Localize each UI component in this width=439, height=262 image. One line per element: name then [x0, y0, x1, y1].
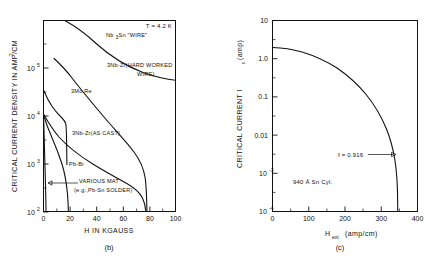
y-tick-label-b-3: 10 2: [27, 206, 40, 216]
figure-container: 0 20 40 60 80 100 H IN KGAUSS 10: [0, 0, 439, 262]
y-tick-base-b-1: 10: [27, 113, 35, 120]
x-axis-title-c-main: H: [325, 230, 330, 237]
curve-3mo-re: [44, 90, 67, 165]
label-pb-bi: Pb-Bi: [69, 161, 84, 167]
y-axis-title-c-main: CRITICAL CURRENT I: [236, 89, 243, 168]
label-nb3sn-wire-text2: Sn "WIRE": [119, 32, 148, 38]
x-tick-label-c-0: 0: [271, 215, 275, 222]
y-tick-exp-c-4: -3: [269, 167, 274, 173]
y-axis-title-c: CRITICAL CURRENT I c (amp): [236, 40, 246, 168]
label-3nbzr-hard-worked-line2: WIRE): [137, 71, 154, 77]
y-tick-exp-b-3: 2: [37, 206, 40, 212]
x-axis-title-b: H IN KGAUSS: [84, 227, 134, 234]
y-tick-exp-c-5: -4: [269, 205, 274, 211]
x-axis-title-c-unit: (amp/cm): [345, 230, 378, 238]
x-axis-ticks-b: [44, 207, 176, 212]
caption-c: (c): [336, 243, 345, 252]
y-tick-label-b-1: 10 4: [27, 110, 40, 120]
label-3nbzr-as-cast: 3Nb-Zr(AS CAST): [72, 130, 120, 136]
caption-b: (b): [104, 243, 114, 252]
label-various-mat-line2: (e.g.,Pb-Sn SOLDER): [74, 187, 133, 193]
curve-sn-cylinder: [273, 48, 398, 212]
y-axis-title-b-text: CRITICAL CURRENT DENSITY IN AMP/CM: [11, 40, 18, 192]
y-axis-title-c-sub: c: [240, 61, 246, 64]
y-tick-label-c-4: 10 -3: [259, 167, 274, 177]
y-tick-label-c-3: 0.01: [254, 132, 268, 139]
y-tick-label-c-2: 0.1: [258, 93, 268, 100]
curve-pb-bi: [44, 115, 69, 212]
label-3nbzr-hard-worked: 3Nb-Zr(HARD WORKED: [107, 62, 172, 68]
y-axis-title-c-unit: (amp): [236, 40, 244, 60]
label-various-mat: VARIOUS MAT: [79, 178, 119, 184]
x-tick-label-b-4: 80: [146, 215, 154, 222]
panel-c-svg: 0 100 200 300 400 H ext (amp/cm): [220, 0, 439, 262]
y-tick-label-c-1: 1.0: [258, 55, 268, 62]
annotation-f-value: f = 0.916: [338, 152, 396, 158]
annotation-sample: 940 Å Sn Cyl.: [293, 179, 332, 185]
x-tick-label-b-0: 0: [42, 215, 46, 222]
x-tick-label-b-3: 60: [119, 215, 127, 222]
label-nb3sn-wire: Nb 3 Sn "WIRE": [106, 32, 147, 40]
x-tick-label-b-1: 20: [66, 215, 74, 222]
y-tick-label-b-0: 10 5: [27, 62, 40, 72]
y-tick-base-b-3: 10: [27, 209, 35, 216]
x-axis-ticks-c: [273, 207, 418, 212]
x-tick-label-c-3: 300: [375, 215, 387, 222]
y-tick-base-b-0: 10: [27, 65, 35, 72]
x-tick-label-c-4: 400: [412, 215, 424, 222]
y-axis-ticks-c: [273, 21, 278, 212]
y-axis-title-b-exp: 2: [8, 53, 14, 56]
annotation-f-text: f = 0.916: [338, 152, 364, 158]
y-tick-label-c-5: 10 -4: [259, 205, 274, 215]
y-tick-exp-b-1: 4: [37, 110, 40, 116]
label-temperature-b: T = 4.2 K: [146, 23, 172, 29]
panel-c: 0 100 200 300 400 H ext (amp/cm): [220, 0, 439, 262]
x-tick-label-b-5: 100: [170, 215, 182, 222]
x-tick-label-b-2: 40: [93, 215, 101, 222]
y-tick-base-c-5: 10: [259, 208, 267, 215]
y-tick-base-c-4: 10: [259, 170, 267, 177]
y-tick-exp-b-2: 3: [37, 158, 40, 164]
y-tick-exp-b-0: 5: [37, 62, 40, 68]
curve-nb3sn-wire: [65, 21, 176, 81]
curve-3nbzr-as-cast: [44, 114, 146, 212]
panel-b-svg: 0 20 40 60 80 100 H IN KGAUSS 10: [0, 0, 220, 262]
various-mat-leader: [48, 181, 78, 185]
x-axis-title-c: H ext (amp/cm): [325, 230, 378, 240]
label-3mo-re: 3Mo Re: [71, 88, 92, 94]
y-tick-base-b-2: 10: [27, 161, 35, 168]
y-axis-title-b: CRITICAL CURRENT DENSITY IN AMP/CM 2: [8, 40, 18, 192]
y-tick-label-b-2: 10 3: [27, 158, 40, 168]
x-axis-title-c-sub: ext: [332, 234, 339, 240]
x-tick-label-c-2: 200: [339, 215, 351, 222]
y-tick-label-c-0: 10: [260, 17, 268, 24]
x-tick-label-c-1: 100: [303, 215, 315, 222]
panel-b: 0 20 40 60 80 100 H IN KGAUSS 10: [0, 0, 220, 262]
label-nb3sn-wire-text: Nb: [106, 32, 114, 38]
